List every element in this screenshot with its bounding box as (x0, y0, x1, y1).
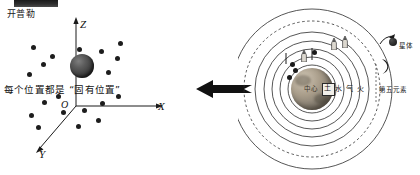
scatter-dot (50, 54, 55, 59)
axis-label-y: Y (39, 148, 45, 160)
scatter-dot (82, 108, 87, 113)
quintessence-label: 第五元素 (379, 84, 407, 94)
scatter-dot (42, 100, 47, 105)
right-diagram-panel: 中心 土 水 气 火 星体 第五元素 (238, 0, 420, 175)
axis-origin-label: O (61, 99, 68, 110)
scatter-dot (96, 118, 101, 123)
scatter-dot (100, 101, 105, 106)
scatter-dot (61, 110, 66, 115)
axis-label-x: X (158, 100, 165, 112)
scatter-dot (27, 72, 32, 77)
element-label-earth: 土 (324, 85, 331, 92)
scatter-dot (31, 45, 36, 50)
scatter-dot (106, 70, 111, 75)
axis-label-z: Z (80, 18, 86, 30)
tower-icon-2 (330, 38, 338, 50)
left-diagram-panel: 开普勒 Z X Y O 每个位置都是“固有位置” (0, 0, 200, 175)
scatter-dot (41, 62, 46, 67)
figure-canvas: 开普勒 Z X Y O 每个位置都是“固有位置” (0, 0, 420, 175)
planet-dot (290, 62, 295, 67)
scatter-dot (77, 47, 82, 52)
large-sphere (70, 54, 94, 78)
star-body-label: 星体 (399, 40, 413, 50)
scatter-dot (118, 41, 123, 46)
inherent-position-note-text: 每个位置都是 (4, 84, 65, 95)
tower-icon-3 (341, 36, 349, 48)
inherent-position-note: 每个位置都是“固有位置” (4, 82, 120, 96)
crescent-moon-icon (380, 58, 393, 75)
planet-dot (312, 50, 317, 55)
tower-icon-1 (300, 50, 308, 62)
scatter-dot (29, 113, 34, 118)
scatter-dot (76, 124, 81, 129)
planet-dot (287, 75, 292, 80)
element-label-fire: 火 (357, 86, 364, 93)
element-label-air: 气 (346, 86, 353, 93)
planet-dot (293, 68, 298, 73)
scatter-dot (99, 49, 104, 54)
inherent-position-quoted: “固有位置” (69, 84, 120, 95)
star-body-dot (389, 38, 397, 46)
scatter-dot (115, 56, 120, 61)
element-label-water: 水 (335, 86, 342, 93)
element-label-center: 中心 (304, 86, 318, 93)
scatter-dot (36, 125, 41, 130)
